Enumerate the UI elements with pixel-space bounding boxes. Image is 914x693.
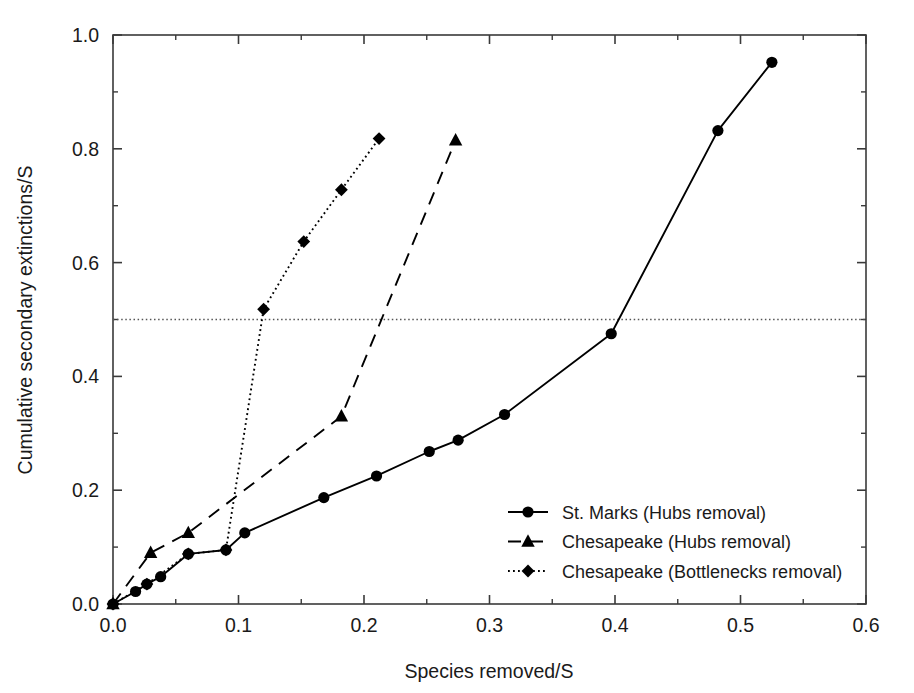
y-tick-label: 0.2 (72, 479, 99, 501)
x-tick-label: 0.1 (225, 614, 252, 636)
x-tick-label: 0.6 (852, 614, 879, 636)
x-axis-label: Species removed/S (404, 660, 573, 682)
data-point-circle (453, 435, 464, 446)
legend-label: St. Marks (Hubs removal) (562, 503, 766, 523)
extinction-curve-chart: 0.00.10.20.30.40.50.6 0.00.20.40.60.81.0… (0, 0, 914, 693)
y-tick-label: 0.6 (72, 252, 99, 274)
x-tick-label: 0.0 (99, 614, 126, 636)
y-axis-label: Cumulative secondary extinctions/S (14, 166, 36, 475)
legend-label: Chesapeake (Bottlenecks removal) (562, 562, 842, 582)
y-tick-label: 0.4 (72, 365, 99, 387)
x-tick-label: 0.2 (350, 614, 377, 636)
legend-label: Chesapeake (Hubs removal) (562, 532, 791, 552)
y-tick-label: 0.0 (72, 593, 99, 615)
y-tick-label: 0.8 (72, 138, 99, 160)
x-tick-label: 0.5 (727, 614, 754, 636)
data-point-circle (239, 527, 250, 538)
x-tick-label: 0.4 (601, 614, 628, 636)
data-point-circle (371, 470, 382, 481)
data-point-circle (499, 409, 510, 420)
data-point-circle (522, 506, 533, 517)
data-point-circle (318, 492, 329, 503)
x-tick-label: 0.3 (476, 614, 503, 636)
y-tick-label: 1.0 (72, 24, 99, 46)
data-point-circle (606, 328, 617, 339)
chart-figure: 0.00.10.20.30.40.50.6 0.00.20.40.60.81.0… (0, 0, 914, 693)
data-point-circle (712, 125, 723, 136)
data-point-circle (766, 57, 777, 68)
data-point-circle (424, 446, 435, 457)
